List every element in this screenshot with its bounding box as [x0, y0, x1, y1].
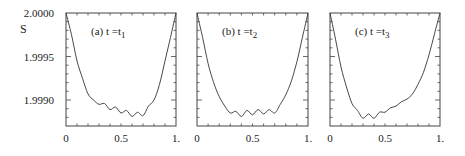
- x-tick-label: 0.5: [378, 132, 392, 144]
- chart-figure: S 2.0000 1.9995 1.9990 (a) t =t100.51.(b…: [0, 0, 465, 156]
- x-tick-label: 0.5: [246, 132, 260, 144]
- x-tick-label: 1.: [304, 132, 313, 144]
- y-tick-label: 2.0000: [24, 7, 55, 19]
- chart-panel-c: (c) t =t300.51.: [327, 13, 444, 144]
- y-axis-label: S: [20, 22, 27, 36]
- chart-panel-a: (a) t =t100.51.: [63, 13, 180, 144]
- panel-label: (c) t =t3: [355, 25, 390, 40]
- x-tick-label: 0: [63, 132, 69, 144]
- x-tick-label: 0.5: [114, 132, 128, 144]
- panel-label: (a) t =t1: [91, 25, 126, 40]
- x-tick-label: 1.: [436, 132, 445, 144]
- panel-label: (b) t =t2: [222, 25, 257, 40]
- x-tick-label: 0: [194, 132, 200, 144]
- chart-panel-b: (b) t =t200.51.: [194, 13, 312, 144]
- x-tick-label: 0: [327, 132, 333, 144]
- y-tick-label: 1.9995: [24, 51, 55, 63]
- x-tick-label: 1.: [172, 132, 181, 144]
- y-tick-label: 1.9990: [24, 94, 55, 106]
